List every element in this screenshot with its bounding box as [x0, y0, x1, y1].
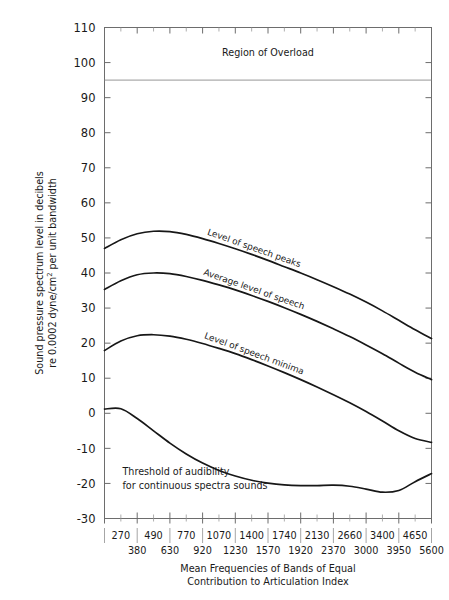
y-tick-label: 40: [81, 266, 96, 280]
y-tick-label: 70: [81, 161, 96, 175]
y-tick-label: 10: [81, 371, 96, 385]
x-tick-label-lower: 1230: [223, 545, 248, 556]
y-tick-label: 20: [81, 336, 96, 350]
x-tick-label-upper: 1400: [239, 530, 264, 541]
x-tick-label-lower: 1570: [256, 545, 281, 556]
x-tick-label-upper: 4650: [403, 530, 428, 541]
x-axis-title-line2: Contribution to Articulation Index: [187, 576, 349, 587]
y-tick-label: -20: [77, 477, 96, 491]
x-tick-label-upper: 490: [144, 530, 163, 541]
x-tick-label-upper: 270: [112, 530, 131, 541]
x-tick-label-lower: 3000: [354, 545, 379, 556]
y-axis-title-line2: re 0.0002 dyne/cm2 per unit bandwidth: [46, 178, 58, 368]
y-tick-label: -30: [77, 512, 96, 526]
x-tick-label-lower: 380: [128, 545, 147, 556]
x-tick-label-lower: 5600: [419, 545, 444, 556]
x-tick-label-upper: 3400: [370, 530, 395, 541]
y-tick-label: 100: [74, 56, 96, 70]
x-tick-label-lower: 630: [161, 545, 180, 556]
x-tick-label-upper: 1070: [207, 530, 232, 541]
speech-spectrum-chart: -30-20-100102030405060708090100110Level …: [0, 0, 449, 600]
y-tick-label: 60: [81, 196, 96, 210]
cut-off-header-text: [441, 0, 443, 7]
y-tick-label: -10: [77, 442, 96, 456]
x-tick-label-upper: 2130: [305, 530, 330, 541]
series-curve: [105, 335, 432, 443]
x-tick-label-lower: 2370: [321, 545, 346, 556]
y-tick-label: 30: [81, 301, 96, 315]
chart-annotation: for continuous spectra sounds: [122, 480, 267, 491]
curve-label: Level of speech peaks: [206, 227, 302, 269]
x-tick-label-upper: 1740: [272, 530, 297, 541]
x-tick-label-upper: 2660: [337, 530, 362, 541]
chart-annotation: Region of Overload: [222, 47, 314, 58]
y-tick-label: 110: [74, 21, 96, 35]
y-axis-title-line1-group: Sound pressure spectrum level in decibel…: [34, 171, 45, 374]
curve-label: Level of speech minima: [203, 330, 305, 376]
y-tick-label: 50: [81, 231, 96, 245]
figure-container: -30-20-100102030405060708090100110Level …: [0, 0, 449, 600]
y-tick-label: 80: [81, 126, 96, 140]
y-axis-title-line1: Sound pressure spectrum level in decibel…: [34, 171, 45, 374]
y-tick-label: 0: [88, 406, 95, 420]
curve-label-group: Level of speech minima: [203, 330, 305, 376]
x-axis-title-line1: Mean Frequencies of Bands of Equal: [180, 563, 355, 574]
y-tick-label: 90: [81, 91, 96, 105]
chart-annotation: Threshold of audibility: [121, 466, 229, 477]
x-tick-label-lower: 1920: [288, 545, 313, 556]
curve-label-group: Average level of speech: [202, 267, 306, 311]
curve-label: Average level of speech: [202, 267, 306, 311]
x-tick-label-upper: 770: [177, 530, 196, 541]
x-tick-label-lower: 3950: [386, 545, 411, 556]
x-tick-label-lower: 920: [193, 545, 212, 556]
y-axis-title-line2-group: re 0.0002 dyne/cm2 per unit bandwidth: [46, 178, 58, 368]
curve-label-group: Level of speech peaks: [206, 227, 302, 269]
